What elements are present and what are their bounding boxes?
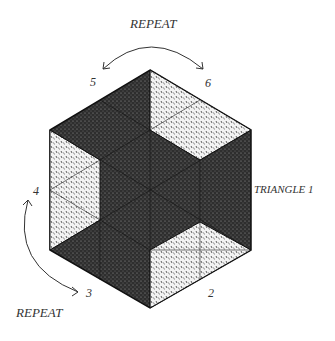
number-4: 4: [33, 184, 39, 199]
hexagon-folding-diagram: REPEAT REPEAT TRIANGLE 1 2 3 4 5 6: [0, 0, 335, 341]
diagram-graphic: [0, 0, 335, 341]
number-5: 5: [90, 75, 96, 90]
number-2: 2: [208, 286, 214, 301]
hexagon: [50, 70, 251, 308]
number-3: 3: [86, 286, 92, 301]
triangle-label: TRIANGLE 1: [254, 183, 314, 195]
number-6: 6: [205, 76, 211, 91]
repeat-top-label: REPEAT: [130, 16, 176, 32]
repeat-bottom-label: REPEAT: [16, 305, 62, 321]
